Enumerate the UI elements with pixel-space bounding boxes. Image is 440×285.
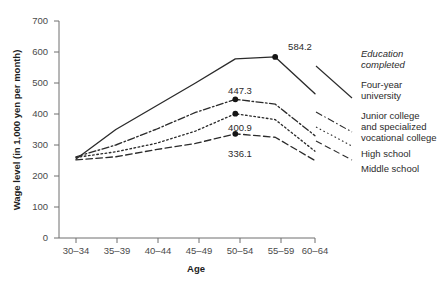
marker-junior-college-peak	[232, 96, 238, 102]
x-tick-label-50-54: 50–54	[227, 245, 253, 256]
y-axis-title: Wage level (in 1,000 yen per month)	[11, 50, 22, 211]
y-tick-label-600: 600	[32, 46, 48, 57]
series-line-middle-school	[76, 134, 315, 161]
data-label-university-peak: 584.2	[288, 41, 312, 52]
data-label-junior-college-peak: 447.3	[228, 85, 252, 96]
series-line-high-school	[76, 114, 315, 158]
series-group	[76, 57, 315, 161]
y-tick-label-200: 200	[32, 170, 48, 181]
legend-heading-line2: completed	[361, 59, 406, 70]
x-tick-label-40-44: 40–44	[145, 245, 171, 256]
legend-item-high-school: High school	[361, 148, 411, 159]
legend-item-junior-college-line3: vocational college	[361, 132, 437, 143]
legend-item-four-year-university-line1: Four-year	[361, 79, 402, 90]
legend-item-junior-college-line2: and specialized	[361, 121, 427, 132]
marker-university-peak	[272, 54, 278, 60]
chart-canvas: Wage level (in 1,000 yen per month) 700 …	[0, 0, 440, 285]
x-tick-label-55-59: 55–59	[268, 245, 294, 256]
marker-high-school-peak	[232, 111, 238, 117]
x-tick-label-30-34: 30–34	[63, 245, 89, 256]
x-tick-label-35-39: 35–39	[104, 245, 130, 256]
leader-line-junior-college	[316, 112, 352, 132]
y-tick-label-400: 400	[32, 108, 48, 119]
wage-by-age-line-chart: Wage level (in 1,000 yen per month) 700 …	[0, 0, 440, 285]
series-line-junior-college	[76, 99, 315, 156]
leader-line-university	[316, 66, 352, 98]
legend-item-middle-school: Middle school	[361, 163, 419, 174]
x-tick-label-60-64: 60–64	[302, 245, 328, 256]
x-axis-title: Age	[187, 263, 205, 274]
y-tick-label-700: 700	[32, 15, 48, 26]
y-tick-label-0: 0	[43, 232, 48, 243]
y-tick-label-500: 500	[32, 77, 48, 88]
data-label-middle-school-peak: 336.1	[228, 148, 252, 159]
y-tick-label-300: 300	[32, 139, 48, 150]
legend-leader-group	[316, 66, 352, 160]
legend-item-four-year-university-line2: university	[361, 90, 401, 101]
legend-heading-line1: Education	[361, 48, 403, 59]
legend-item-junior-college-line1: Junior college	[361, 110, 420, 121]
y-tick-label-100: 100	[32, 201, 48, 212]
x-tick-label-45-49: 45–49	[186, 245, 212, 256]
leader-line-middle-school	[316, 141, 352, 160]
data-label-high-school-peak: 400.9	[228, 122, 252, 133]
leader-line-high-school	[316, 127, 352, 146]
